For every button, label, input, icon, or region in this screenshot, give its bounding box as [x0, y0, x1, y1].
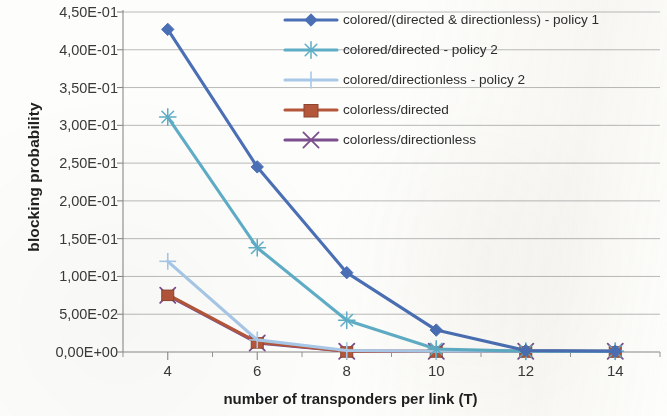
- x-axis-tick-label: 12: [517, 362, 534, 379]
- legend-square-icon: [283, 99, 339, 121]
- legend-item: colored/directed - policy 2: [283, 35, 599, 65]
- x-axis-tick-label: 6: [253, 362, 261, 379]
- data-series: [159, 253, 623, 360]
- x-axis-tick-label: 8: [343, 362, 351, 379]
- legend-item: colorless/directionless: [283, 125, 599, 155]
- legend-diamond-icon: [283, 9, 339, 31]
- legend-item: colored/directionless - policy 2: [283, 65, 599, 95]
- x-axis-tick-label: 4: [164, 362, 172, 379]
- legend-label: colored/directionless - policy 2: [343, 73, 525, 87]
- x-axis-tickmarks: [123, 352, 660, 360]
- legend-star-icon: [283, 39, 339, 61]
- x-axis-title: number of transponders per link (T): [0, 390, 667, 407]
- legend-label: colorless/directionless: [343, 133, 476, 147]
- legend-label: colored/directed - policy 2: [343, 43, 498, 57]
- legend-cross-icon: [283, 129, 339, 151]
- legend-item: colored/(directed & directionless) - pol…: [283, 5, 599, 35]
- data-series: [160, 288, 623, 359]
- legend-label: colored/(directed & directionless) - pol…: [343, 13, 599, 27]
- x-axis-tick-label: 10: [428, 362, 445, 379]
- legend-item: colorless/directed: [283, 95, 599, 125]
- y-axis-tickmarks: [117, 12, 123, 352]
- legend-plus-icon: [283, 69, 339, 91]
- x-axis-tick-label: 14: [607, 362, 624, 379]
- chart-legend: colored/(directed & directionless) - pol…: [283, 5, 599, 155]
- legend-label: colorless/directed: [343, 103, 449, 117]
- chart-figure: blocking probability 4,50E-014,00E-013,5…: [0, 0, 667, 416]
